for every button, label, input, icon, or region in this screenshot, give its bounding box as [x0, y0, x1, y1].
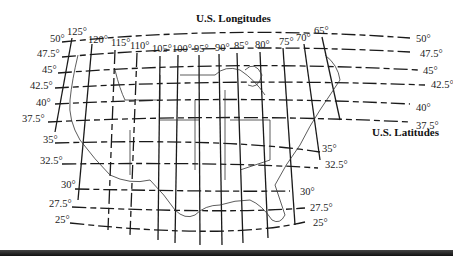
- lat-label-left-30: 30°: [61, 179, 76, 190]
- lat-label-left-35: 35°: [43, 134, 58, 145]
- longitude-labels: 125° 120° 115° 110° 105° 100° 95° 90° 85…: [67, 25, 329, 54]
- bottom-border: [0, 250, 453, 256]
- lat-label-right-32-5: 32.5°: [325, 159, 348, 170]
- lat-label-left-47-5: 47.5°: [37, 48, 60, 59]
- lon-label-85: 85°: [234, 40, 249, 51]
- lat-label-right-30: 30°: [300, 186, 315, 197]
- lon-label-120: 120°: [88, 34, 108, 45]
- lat-label-right-40: 40°: [416, 102, 431, 113]
- lat-label-right-42-5: 42.5°: [431, 79, 453, 90]
- lat-label-right-25: 25°: [313, 217, 328, 228]
- lat-label-left-32-5: 32.5°: [40, 155, 63, 166]
- lon-label-105: 105°: [152, 43, 172, 54]
- lat-label-right-50: 50°: [416, 33, 431, 44]
- lat-label-left-25: 25°: [55, 214, 70, 225]
- lon-label-90: 90°: [215, 42, 230, 53]
- lat-label-left-42-5: 42.5°: [30, 80, 53, 91]
- us-lat-long-map: U.S. Longitudes U.S. Latitudes: [0, 0, 453, 250]
- lat-label-right-45: 45°: [423, 65, 438, 76]
- lon-label-100: 100°: [172, 43, 192, 54]
- lat-label-right-37-5: 37.5°: [416, 120, 439, 131]
- lat-label-left-37-5: 37.5°: [22, 113, 45, 124]
- lon-label-110: 110°: [130, 40, 150, 51]
- lat-label-right-35: 35°: [322, 143, 337, 154]
- lon-label-65: 65°: [314, 25, 329, 36]
- lat-label-left-50: 50°: [50, 33, 65, 44]
- lon-label-75: 75°: [279, 36, 294, 47]
- latitude-lines: [48, 32, 425, 231]
- lon-label-95: 95°: [194, 43, 209, 54]
- lon-label-125: 125°: [67, 26, 87, 37]
- longitudes-title: U.S. Longitudes: [196, 12, 272, 24]
- lat-label-left-45: 45°: [42, 64, 57, 75]
- lat-label-left-27-5: 27.5°: [49, 198, 72, 209]
- lat-label-right-27-5: 27.5°: [310, 202, 333, 213]
- lat-label-right-47-5: 47.5°: [420, 48, 443, 59]
- longitude-lines: [55, 37, 340, 245]
- lat-label-left-40: 40°: [36, 97, 51, 108]
- lon-label-115: 115°: [111, 37, 131, 48]
- lon-label-70: 70°: [296, 32, 311, 43]
- lon-label-80: 80°: [255, 39, 270, 50]
